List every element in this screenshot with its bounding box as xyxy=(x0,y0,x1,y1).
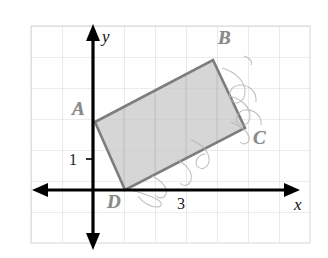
x-axis-label: x xyxy=(294,196,302,213)
coordinate-grid-figure: A B C D y x 1 3 xyxy=(0,0,328,258)
y-axis-label: y xyxy=(102,28,110,45)
vertex-label-c: C xyxy=(253,128,266,147)
vertex-label-a: A xyxy=(72,99,85,118)
tick-label-3: 3 xyxy=(177,196,185,212)
vertex-label-b: B xyxy=(218,28,231,47)
geometry-canvas xyxy=(0,0,328,258)
tick-label-1: 1 xyxy=(69,152,77,168)
vertex-label-d: D xyxy=(107,192,121,211)
